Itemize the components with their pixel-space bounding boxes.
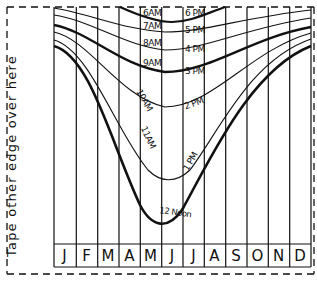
month-label: A	[204, 244, 225, 267]
hour-label-4pm: 4 PM	[185, 45, 205, 54]
month-label: O	[247, 244, 268, 267]
hour-label-7am: 7AM	[143, 22, 161, 31]
month-label: J	[54, 244, 75, 267]
hour-label-6pm: 6 PM	[185, 9, 205, 18]
hour-label-5pm: 5 PM	[185, 26, 205, 35]
month-label: N	[268, 244, 289, 267]
month-label: M	[98, 244, 119, 267]
month-label: S	[226, 244, 247, 267]
month-label: F	[76, 244, 97, 267]
hour-label-6am: 6AM	[143, 9, 161, 18]
month-label: D	[290, 244, 311, 267]
hour-label-8am: 8AM	[143, 39, 161, 48]
month-grid	[54, 7, 311, 267]
hour-label-9am: 9AM	[143, 59, 161, 68]
tape-instruction: Tape other edge over here	[4, 55, 19, 257]
hour-label-3pm: 3 PM	[185, 67, 205, 76]
month-label: A	[119, 244, 140, 267]
month-label: J	[162, 244, 183, 267]
month-label: M	[140, 244, 161, 267]
sundial-chart-template: Tape other edge over here J F M A M J J …	[0, 0, 317, 282]
month-label: J	[183, 244, 204, 267]
